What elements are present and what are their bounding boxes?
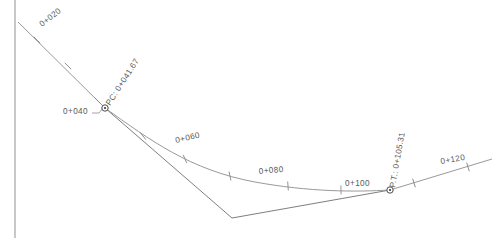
- control-point-label-pt: P.T.: 0+105.31: [388, 131, 407, 188]
- station-label-0-020: 0+020: [38, 6, 63, 29]
- pi-to-pt-tangent-line: [232, 190, 390, 218]
- station-tick-curve-1: [183, 155, 187, 163]
- station-tick-marks: [34, 37, 469, 195]
- leader-0-040: [92, 108, 103, 113]
- pc-to-pi-tangent-line: [105, 108, 232, 218]
- station-label-0-100: 0+100: [345, 179, 370, 188]
- cad-drawing-canvas: 0+0200+0400+0600+0800+1000+120 PC: 0+041…: [0, 0, 503, 238]
- station-tick-back_tangent-0: [34, 37, 40, 43]
- control-point-label-pc: PC: 0+041.67: [104, 57, 141, 107]
- back-tangent-line: [18, 22, 105, 108]
- control-point-labels: PC: 0+041.67P.T.: 0+105.31: [104, 57, 407, 188]
- station-label-0-040: 0+040: [63, 107, 88, 116]
- station-label-0-060: 0+060: [174, 131, 200, 145]
- station-tick-curve-3: [288, 182, 289, 191]
- leader-lines: [92, 108, 103, 113]
- station-tick-back_tangent-1: [65, 63, 71, 69]
- station-tick-back_tangent-2: [95, 98, 101, 104]
- pt-node-center: [389, 189, 391, 191]
- station-label-0-080: 0+080: [258, 165, 284, 176]
- pc-node-center: [104, 107, 106, 109]
- alignment-svg: 0+0200+0400+0600+0800+1000+120 PC: 0+041…: [0, 0, 503, 238]
- station-label-0-120: 0+120: [440, 153, 466, 166]
